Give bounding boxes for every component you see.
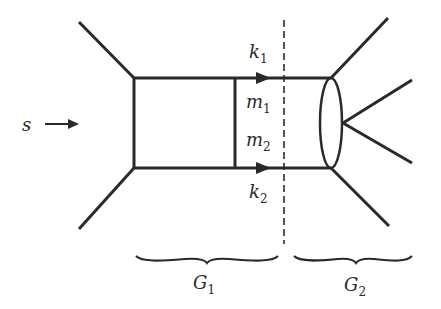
external-leg-upper-right: [331, 18, 388, 78]
g2-label: G2: [344, 274, 366, 299]
m1-label: m1: [246, 91, 271, 116]
s-label: s: [22, 114, 31, 135]
k2-label: k2: [249, 181, 268, 206]
external-leg-mid-upper-right: [343, 80, 412, 123]
arrow-k2-icon: [256, 162, 271, 174]
external-leg-upper-left: [79, 22, 134, 78]
external-leg-lower-right: [331, 168, 389, 226]
k1-label: k1: [249, 41, 268, 66]
arrow-k1-icon: [256, 72, 271, 84]
blob-oval: [320, 78, 342, 168]
s-momentum-arrow: [45, 119, 79, 129]
brace-g2: [294, 256, 412, 263]
g1-label: G1: [193, 272, 215, 297]
brace-g1: [136, 256, 278, 263]
external-leg-mid-lower-right: [343, 123, 412, 163]
m2-label: m2: [246, 129, 271, 154]
feynman-diagram: s k1 m1 m2 k2 G1 G2: [0, 0, 441, 309]
external-leg-lower-left: [79, 168, 134, 229]
